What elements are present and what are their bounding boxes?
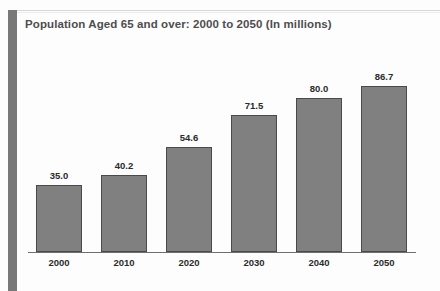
bar-group: 35.0 xyxy=(36,60,82,252)
bar-value-label-2020: 54.6 xyxy=(157,132,221,143)
x-tick-2010: 2010 xyxy=(92,257,156,268)
bar-value-label-2000: 35.0 xyxy=(27,170,91,181)
bars-container: 35.040.254.671.580.086.7 xyxy=(28,60,418,252)
x-tick-2050: 2050 xyxy=(352,257,416,268)
x-tick-2000: 2000 xyxy=(27,257,91,268)
x-axis-line xyxy=(28,252,416,253)
bar-value-label-2050: 86.7 xyxy=(352,71,416,82)
bar-2010 xyxy=(101,175,147,252)
bar-value-label-2040: 80.0 xyxy=(287,83,351,94)
left-accent-band xyxy=(8,10,17,291)
population-bar-chart-figure: Population Aged 65 and over: 2000 to 205… xyxy=(0,0,440,291)
bar-group: 71.5 xyxy=(231,60,277,252)
plot-area: 35.040.254.671.580.086.7 200020102020203… xyxy=(28,60,418,291)
bar-value-label-2010: 40.2 xyxy=(92,160,156,171)
top-divider-rule xyxy=(14,10,440,11)
bar-value-label-2030: 71.5 xyxy=(222,100,286,111)
bar-2030 xyxy=(231,115,277,252)
bar-2050 xyxy=(361,86,407,252)
chart-title: Population Aged 65 and over: 2000 to 205… xyxy=(25,18,332,30)
x-tick-2030: 2030 xyxy=(222,257,286,268)
bar-group: 80.0 xyxy=(296,60,342,252)
bar-group: 54.6 xyxy=(166,60,212,252)
bar-2020 xyxy=(166,147,212,252)
x-tick-2040: 2040 xyxy=(287,257,351,268)
bar-2040 xyxy=(296,98,342,252)
bar-group: 86.7 xyxy=(361,60,407,252)
bar-group: 40.2 xyxy=(101,60,147,252)
bar-2000 xyxy=(36,185,82,252)
top-divider-rule-secondary xyxy=(14,12,440,13)
x-tick-2020: 2020 xyxy=(157,257,221,268)
